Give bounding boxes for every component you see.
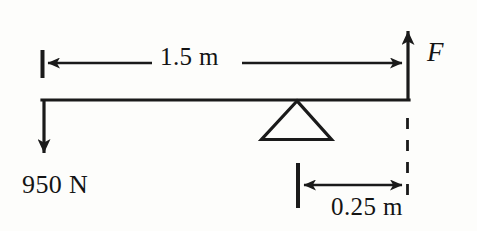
beam-length-label: 1.5 m: [160, 44, 219, 69]
load-force-label: 950 N: [22, 172, 88, 198]
applied-force-label: F: [427, 39, 444, 66]
lever-diagram: 1.5 m 0.25 m 950 N F: [0, 0, 477, 231]
pivot-distance-label: 0.25 m: [331, 194, 403, 219]
fulcrum-triangle-icon: [262, 101, 332, 140]
